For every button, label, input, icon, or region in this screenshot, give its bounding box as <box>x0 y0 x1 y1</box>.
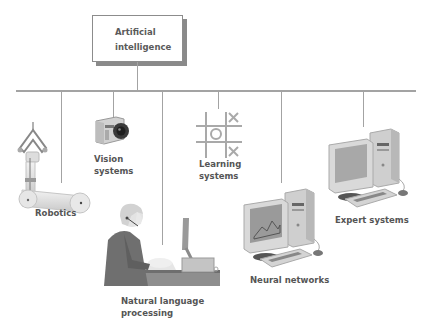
person-at-computer-icon <box>100 200 225 290</box>
nlp-label: Natural language processing <box>121 295 204 319</box>
learning-systems-label: Learning systems <box>199 158 241 182</box>
neural-connector-line <box>281 91 282 183</box>
nlp-label-line2: processing <box>121 307 204 319</box>
learning-connector-line <box>218 91 219 109</box>
vision-label-line1: Vision <box>94 153 133 165</box>
learning-label-line1: Learning <box>199 158 241 170</box>
desktop-computer-icon-expert <box>325 125 415 210</box>
nlp-label-line1: Natural language <box>121 295 204 307</box>
tic-tac-toe-icon <box>194 110 244 160</box>
robotics-label: Robotics <box>35 207 76 219</box>
vision-label-line2: systems <box>94 165 133 177</box>
horizontal-branch-line <box>16 90 416 92</box>
root-node-artificial-intelligence: Artificial intelligence <box>92 15 183 62</box>
desktop-computer-icon-neural <box>240 185 330 270</box>
root-label-line2: intelligence <box>115 40 171 55</box>
expert-connector-line <box>363 91 364 127</box>
learning-label-line2: systems <box>199 170 241 182</box>
vision-systems-label: Vision systems <box>94 153 133 177</box>
root-label-line1: Artificial <box>115 25 171 40</box>
camera-icon <box>94 113 130 147</box>
neural-networks-label: Neural networks <box>250 274 329 286</box>
root-connector-line <box>137 62 138 91</box>
robot-arm-icon <box>0 100 100 210</box>
root-node-label: Artificial intelligence <box>115 25 171 55</box>
expert-systems-label: Expert systems <box>335 214 409 226</box>
